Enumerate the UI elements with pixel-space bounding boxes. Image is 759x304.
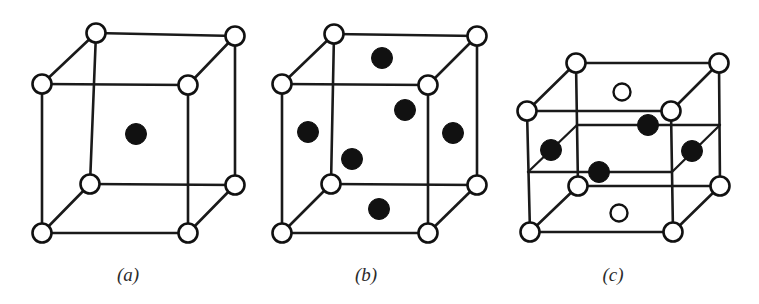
edge-back-left <box>331 34 334 184</box>
corner-atom-front-bottom-right <box>179 224 198 243</box>
back-face-atom <box>395 100 416 121</box>
corner-atom-back-bottom-left <box>569 177 588 196</box>
corner-atom-front-top-right <box>179 76 198 95</box>
corner-atom-back-top-left <box>567 54 586 73</box>
corner-atom-back-bottom-left <box>81 175 100 194</box>
corner-atom-front-bottom-left <box>273 224 292 243</box>
corner-atom-front-bottom-left <box>521 223 540 242</box>
panel-c: (c) <box>518 54 730 287</box>
corner-atom-back-top-left <box>87 24 106 43</box>
corner-atom-front-top-right <box>662 102 681 121</box>
edge-back-top <box>334 34 477 36</box>
bottom-face-open-atom <box>611 205 628 222</box>
edge-connect-top-left <box>42 33 96 84</box>
panel-a: (a) <box>33 24 245 287</box>
mid-left-atom <box>541 140 562 161</box>
corner-atom-front-top-left <box>33 75 52 94</box>
top-face-atom <box>372 48 393 69</box>
corner-atom-back-top-right <box>468 27 487 46</box>
edge-back-bottom <box>90 184 235 185</box>
corner-atom-front-top-right <box>419 76 438 95</box>
body-center-atom <box>126 124 147 145</box>
mid-front-atom <box>589 162 610 183</box>
edge-back-left <box>90 33 96 184</box>
panel-a-interior-atoms <box>126 124 147 145</box>
left-face-atom <box>298 122 319 143</box>
panel-b: (b) <box>273 25 487 287</box>
edge-front-top <box>42 84 188 85</box>
corner-atom-back-bottom-left <box>322 175 341 194</box>
right-face-atom <box>443 123 464 144</box>
edge-back-bottom <box>331 184 477 185</box>
corner-atom-front-bottom-right <box>664 223 683 242</box>
edge-connect-top-left <box>282 34 334 84</box>
corner-atom-front-bottom-right <box>419 224 438 243</box>
panel-label-a: (a) <box>117 264 139 286</box>
edge-back-top <box>96 33 235 36</box>
corner-atom-back-top-left <box>325 25 344 44</box>
figure-root: (a) <box>0 0 759 304</box>
corner-atom-back-top-right <box>226 27 245 46</box>
panel-label-b: (b) <box>355 264 377 286</box>
corner-atom-front-top-left <box>273 75 292 94</box>
panel-label-c: (c) <box>602 264 623 286</box>
mid-back-atom <box>638 115 659 136</box>
panel-c-open-face-atoms <box>611 84 631 222</box>
edge-front-top <box>282 84 428 85</box>
corner-atom-back-bottom-right <box>468 176 487 195</box>
corner-atom-back-bottom-right <box>226 176 245 195</box>
corner-atom-front-bottom-left <box>33 224 52 243</box>
crystal-structures-figure: (a) <box>0 0 759 304</box>
top-face-open-atom <box>614 84 631 101</box>
corner-atom-back-top-right <box>710 54 729 73</box>
corner-atom-back-bottom-right <box>711 177 730 196</box>
corner-atom-front-top-left <box>518 102 537 121</box>
front-face-atom <box>342 149 363 170</box>
bottom-face-atom <box>369 199 390 220</box>
mid-right-atom <box>682 141 703 162</box>
